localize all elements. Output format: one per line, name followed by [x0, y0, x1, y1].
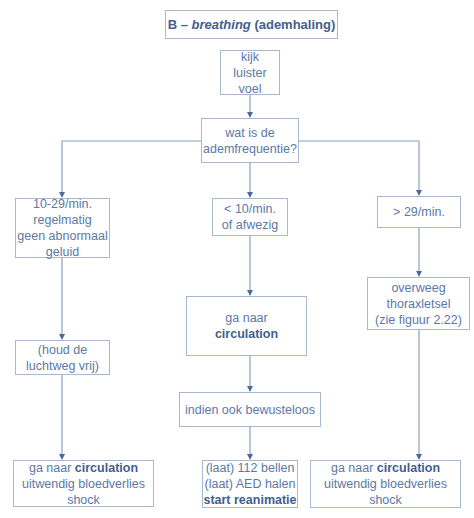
- goto-circulation-box: ga naar circulation: [186, 296, 307, 356]
- right-end-box: ga naar circulation uitwendig bloedverli…: [310, 460, 461, 508]
- mid-end-box: (laat) 112 bellen (laat) AED halen start…: [202, 460, 298, 508]
- airway-box: (houd de luchtweg vrij): [15, 340, 110, 375]
- title-box: B – breathing (ademhaling): [165, 10, 338, 39]
- left-rate-box: 10-29/min. regelmatig geen abnormaal gel…: [15, 198, 110, 258]
- right-rate-box: > 29/min.: [377, 196, 461, 228]
- question-box: wat is de ademfrequentie?: [201, 118, 299, 163]
- left-end-box: ga naar circulation uitwendig bloedverli…: [13, 460, 154, 507]
- thorax-box: overweeg thoraxletsel (zie figuur 2.22): [367, 277, 470, 330]
- mid-rate-box: < 10/min. of afwezig: [212, 198, 288, 236]
- title-text: B – breathing (ademhaling): [168, 17, 336, 33]
- unconscious-box: indien ook bewusteloos: [179, 392, 321, 427]
- assess-box: kijk luister voel: [220, 50, 280, 95]
